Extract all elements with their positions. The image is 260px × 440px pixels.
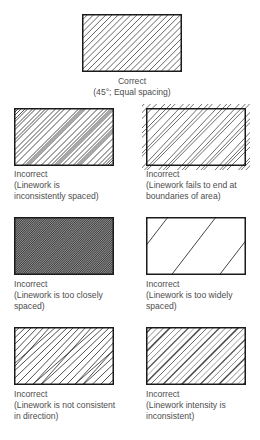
hatch-box-inconsistent-spacing: [14, 108, 114, 166]
caption-overrun-boundaries: Incorrect (Linework fails to end at boun…: [146, 169, 237, 202]
caption-too-wide: Incorrect (Linework is too widely spaced…: [146, 279, 232, 312]
hatch-box-too-wide: [146, 217, 246, 275]
caption-correct: Correct (45°; Equal spacing): [72, 76, 192, 98]
caption-description-line: (Linework is not consistent: [14, 400, 115, 411]
caption-description-line: (Linework is too closely: [14, 290, 103, 301]
panel-inconsistent-direction: [14, 327, 114, 385]
panel-inconsistent-spacing: [14, 108, 114, 166]
caption-description-line: inconsistent): [146, 411, 226, 422]
hatch-box-inconsistent-direction: [14, 327, 114, 385]
panel-overrun-boundaries: [140, 102, 252, 172]
hatch-box-inconsistent-intensity: [146, 327, 246, 385]
panel-too-close: [14, 217, 114, 275]
panel-correct: [82, 14, 182, 72]
caption-status: Incorrect: [14, 169, 99, 180]
caption-description-line: (Linework is too widely: [146, 290, 232, 301]
panel-inconsistent-intensity: [146, 327, 246, 385]
panel-too-wide: [146, 217, 246, 275]
caption-status: Incorrect: [146, 169, 237, 180]
caption-description-line: (Linework is: [14, 180, 99, 191]
caption-status: Incorrect: [146, 389, 226, 400]
caption-description-line: spaced): [14, 301, 103, 312]
caption-inconsistent-spacing: Incorrect (Linework is inconsistently sp…: [14, 169, 99, 202]
caption-status: Incorrect: [14, 389, 115, 400]
caption-description-line: (Linework fails to end at: [146, 180, 237, 191]
caption-description-line: spaced): [146, 301, 232, 312]
caption-too-close: Incorrect (Linework is too closely space…: [14, 279, 103, 312]
caption-status: Incorrect: [14, 279, 103, 290]
caption-description-line: inconsistently spaced): [14, 191, 99, 202]
caption-inconsistent-intensity: Incorrect (Linework intensity is inconsi…: [146, 389, 226, 422]
hatch-box-overrun-boundaries: [140, 102, 252, 172]
caption-status: Correct: [72, 76, 192, 87]
caption-description: (45°; Equal spacing): [72, 87, 192, 98]
caption-inconsistent-direction: Incorrect (Linework is not consistent in…: [14, 389, 115, 422]
caption-description-line: in direction): [14, 411, 115, 422]
hatch-box-correct: [82, 14, 182, 72]
hatch-box-too-close: [14, 217, 114, 275]
caption-description-line: boundaries of area): [146, 191, 237, 202]
caption-status: Incorrect: [146, 279, 232, 290]
caption-description-line: (Linework intensity is: [146, 400, 226, 411]
